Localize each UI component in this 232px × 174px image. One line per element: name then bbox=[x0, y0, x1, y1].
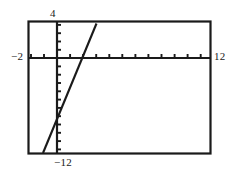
y-max-label: 4 bbox=[50, 8, 56, 19]
y-min-label: −12 bbox=[54, 157, 72, 168]
graph-figure: 4 −2 12 −12 bbox=[0, 0, 232, 174]
x-min-label: −2 bbox=[11, 51, 23, 62]
x-max-label: 12 bbox=[214, 51, 226, 62]
plot-canvas bbox=[0, 0, 232, 174]
plot-frame bbox=[29, 22, 211, 154]
